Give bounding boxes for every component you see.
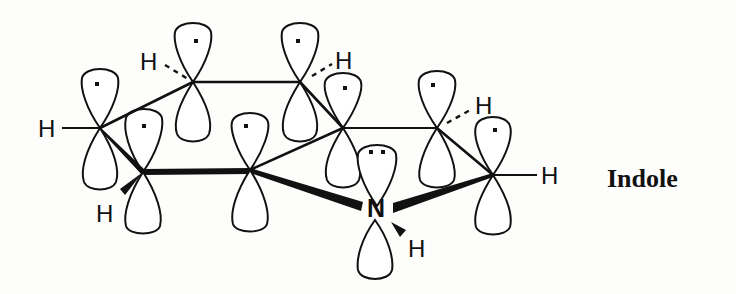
c4-lower-lobe (283, 82, 317, 142)
n-lower-lobe (358, 220, 393, 279)
c4-electron-dot (296, 39, 300, 43)
h-label-n: H (408, 235, 425, 262)
c3-lower-lobe (176, 82, 210, 142)
indole-orbital-diagram: H H H H H H N H Indole (0, 0, 736, 294)
c1-electron-dot (95, 82, 99, 86)
h-label-c5: H (335, 47, 352, 74)
n-lone-pair-dot-2 (381, 150, 385, 154)
bond-n-h-wedge (391, 222, 406, 237)
bond-c2-c6-bold (143, 171, 250, 172)
c6-upper-lobe (232, 113, 269, 170)
c6-lower-lobe (232, 170, 268, 232)
c2-electron-dot (142, 124, 146, 128)
c5-electron-dot (343, 86, 347, 90)
c6-electron-dot (244, 124, 248, 128)
c3-upper-lobe (175, 23, 212, 82)
c5-lower-lobe (326, 128, 360, 188)
c1-upper-lobe (82, 69, 119, 128)
c8-upper-lobe (475, 117, 511, 175)
h-label-c3: H (140, 48, 157, 75)
nitrogen-label: N (367, 194, 385, 222)
c7-upper-lobe (419, 71, 456, 128)
bond-c7-h-dash (447, 109, 472, 123)
h-label-c2: H (96, 200, 113, 227)
h-label-c7: H (475, 92, 492, 119)
c8-electron-dot (493, 128, 497, 132)
c7-electron-dot (431, 83, 435, 87)
bond-c4-h-dash (312, 64, 332, 76)
c3-electron-dot (194, 39, 198, 43)
c5-upper-lobe (325, 73, 362, 128)
h-label-c8: H (541, 162, 558, 189)
molecule-name: Indole (607, 164, 678, 193)
orbital-diagram-svg: H H H H H H N H Indole (0, 0, 736, 294)
h-label-c1: H (38, 115, 55, 142)
n-lone-pair-dot-1 (369, 150, 373, 154)
c4-upper-lobe (282, 23, 319, 82)
c8-lower-lobe (475, 175, 511, 235)
c1-lower-lobe (83, 128, 117, 190)
